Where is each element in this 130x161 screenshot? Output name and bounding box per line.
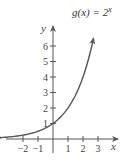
y-tick-label: 2 [43,103,48,114]
exponential-graph: −2−1123 123456 x y g(x) = 2x [0,0,130,161]
function-label: g(x) = 2x [72,5,112,19]
x-tick-label: 1 [66,143,71,154]
y-ticks: 123456 [43,41,56,130]
x-axis-label: x [110,140,116,152]
x-tick-label: 3 [96,143,101,154]
y-tick-label: 5 [43,56,48,67]
y-axis-label: y [40,22,46,34]
y-tick-label: 4 [43,72,48,83]
y-tick-label: 3 [43,87,48,98]
x-tick-label: 2 [81,143,86,154]
function-label-base: g(x) = 2 [72,6,109,19]
x-tick-label: −1 [33,143,44,154]
x-tick-label: −2 [18,143,29,154]
function-label-exponent: x [107,5,112,14]
y-tick-label: 6 [43,41,48,52]
